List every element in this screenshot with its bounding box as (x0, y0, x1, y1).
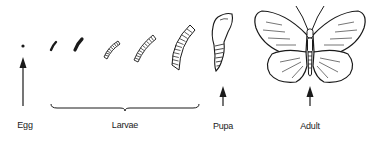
larvae-illustration (51, 25, 195, 70)
larva-stage-3 (104, 41, 120, 59)
larva-stage-5 (172, 25, 195, 70)
stage-label-egg: Egg (17, 120, 32, 130)
adult-butterfly-illustration (255, 6, 365, 82)
egg-arrow-icon (20, 57, 27, 106)
egg-illustration (21, 44, 24, 47)
stage-label-larvae: Larvae (112, 120, 138, 130)
larva-stage-2 (75, 39, 82, 50)
life-cycle-diagram: Egg Larvae Pupa Adult (0, 0, 385, 141)
stage-label-adult: Adult (300, 121, 320, 131)
pupa-illustration (212, 13, 232, 71)
diagram-canvas (0, 0, 385, 141)
larvae-brace (51, 104, 199, 111)
larva-stage-4 (134, 35, 156, 62)
stage-label-pupa: Pupa (213, 121, 233, 131)
larva-stage-1 (51, 42, 56, 50)
adult-arrow-icon (307, 86, 314, 106)
pupa-arrow-icon (220, 86, 227, 106)
